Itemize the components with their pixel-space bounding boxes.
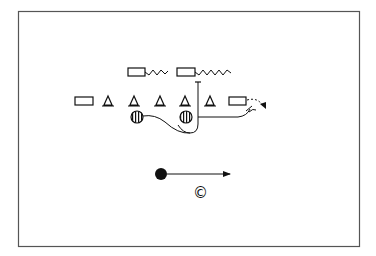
striped-circle-blocker-1: [131, 111, 143, 123]
dashed-arc-route: [247, 99, 263, 106]
back-right: [177, 68, 231, 76]
left-end-rect: [75, 97, 93, 105]
triangle-lineman-4: [179, 96, 191, 106]
zigzag-motion-right: [195, 70, 231, 75]
triangle-lineman-5: [204, 96, 216, 106]
ball-carrier-dot: [155, 168, 167, 180]
diagram-canvas: [0, 0, 376, 256]
arrowhead-dashed: [260, 102, 266, 109]
vertical-route: [178, 82, 198, 133]
linemen: [102, 96, 216, 106]
triangle-lineman-2: [128, 96, 140, 106]
triangle-lineman-3: [154, 96, 166, 106]
circled-c-label: ©: [193, 186, 208, 201]
route-hook-mark: [246, 106, 256, 112]
striped-circle-blocker-2: [180, 111, 192, 123]
triangle-lineman-1: [102, 96, 114, 106]
play-diagram: ©: [0, 0, 376, 256]
right-end-rect: [229, 97, 246, 105]
zigzag-motion-left: [145, 70, 168, 75]
horizontal-route: [198, 109, 250, 117]
diagram-frame: [19, 12, 360, 247]
back-left: [128, 68, 168, 76]
